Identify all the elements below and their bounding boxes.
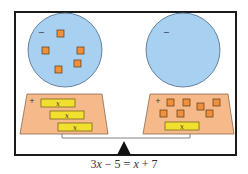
balance-scale-diagram: − + x x x − +	[0, 0, 248, 174]
equation: 3x − 5 = x + 7	[0, 157, 248, 172]
eq-minus: −	[102, 157, 115, 171]
unit-tile	[197, 103, 204, 110]
unit-tile	[177, 110, 184, 117]
unit-tile	[167, 99, 174, 106]
left-negative-sign: −	[38, 28, 45, 37]
x-tile-label: x	[56, 100, 60, 108]
eq-plus: +	[139, 157, 152, 171]
left-positive-sign: +	[29, 97, 35, 105]
eq-const-right: 7	[152, 157, 158, 171]
x-tile-label: x	[73, 124, 77, 132]
x-tile-label: x	[180, 123, 184, 131]
unit-tile	[206, 110, 213, 117]
right-positive-sign: +	[155, 97, 161, 105]
unit-tile	[160, 110, 167, 117]
right-negative-circle	[146, 13, 220, 87]
unit-tile	[57, 30, 64, 37]
unit-tile	[213, 99, 220, 106]
unit-tile	[183, 99, 190, 106]
unit-tile	[55, 66, 62, 73]
left-negative-circle	[28, 13, 102, 87]
x-tile-label: x	[65, 112, 69, 120]
unit-tile	[74, 60, 81, 67]
unit-tile	[77, 47, 84, 54]
eq-equals: =	[121, 157, 134, 171]
right-negative-sign: −	[163, 28, 170, 37]
unit-tile	[42, 47, 49, 54]
